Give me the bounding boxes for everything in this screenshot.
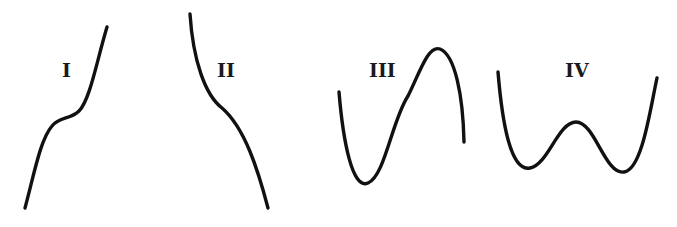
panel-iv: IV (498, 59, 657, 172)
label-i: I (62, 59, 71, 81)
panel-iii: III (339, 49, 464, 184)
panel-i: I (25, 27, 107, 208)
panel-ii: II (190, 14, 268, 208)
curve-ii (190, 14, 268, 208)
curve-figure: I II III IV (0, 0, 677, 227)
label-iii: III (369, 59, 396, 81)
curve-iii (339, 49, 464, 184)
curve-iv (498, 72, 657, 172)
curve-i (25, 27, 107, 208)
label-iv: IV (565, 59, 590, 81)
label-ii: II (217, 59, 235, 81)
